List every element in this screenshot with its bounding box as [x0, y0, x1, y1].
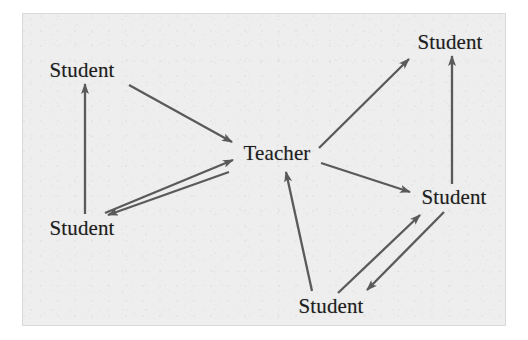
node-label-student-top-right: Student	[418, 32, 483, 53]
edge-arrow	[319, 59, 409, 148]
edge-arrow	[129, 85, 232, 142]
edge-arrow	[321, 163, 410, 192]
node-label-student-top-left: Student	[50, 60, 115, 81]
edge-arrow	[367, 212, 444, 290]
edge-group	[85, 56, 452, 293]
node-label-student-bottom: Student	[299, 296, 364, 317]
diagram-canvas: StudentStudentTeacherStudentStudentStude…	[0, 0, 528, 340]
edge-arrow	[105, 160, 233, 213]
edge-arrow	[286, 172, 312, 291]
edge-arrow	[338, 215, 420, 293]
node-label-teacher: Teacher	[244, 143, 311, 164]
edge-arrow	[108, 172, 229, 215]
node-label-student-mid-right: Student	[422, 187, 487, 208]
node-label-student-bottom-left: Student	[50, 218, 115, 239]
